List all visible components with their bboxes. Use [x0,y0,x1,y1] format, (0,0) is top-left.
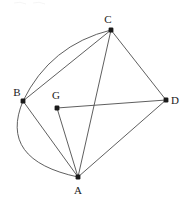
segment-AD [78,100,166,177]
vertex-label-G: G [52,89,60,101]
vertex-label-A: A [74,184,82,196]
vertex-dot-C [109,28,114,33]
segment-GD [57,100,166,108]
vertex-dot-G [55,106,60,111]
segment-AG [57,108,78,177]
geometry-figure: A B C D G [0,0,183,204]
vertex-label-C: C [104,13,111,25]
geometry-canvas: A B C D G [0,0,183,204]
vertex-label-B: B [13,86,20,98]
vertex-dot-D [164,98,169,103]
vertex-label-D: D [171,94,179,106]
scan-artifact [14,2,45,4]
segment-CA [78,30,111,177]
segment-AB [23,101,78,177]
vertex-dot-B [21,99,26,104]
arc-BA [17,101,78,177]
segment-CD [111,30,166,100]
vertex-dot-A [76,175,81,180]
